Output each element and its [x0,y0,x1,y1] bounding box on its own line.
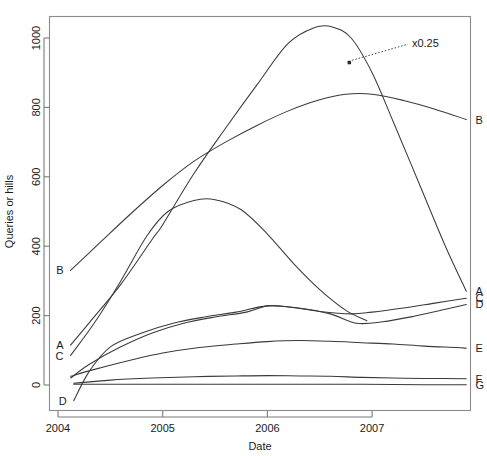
series-label-right-d: D [476,298,484,310]
series-line-b [71,93,467,270]
y-tick-label: 600 [30,168,42,186]
series-line-c-upper-hill [71,199,367,356]
series-line-f [74,376,467,384]
series-line-e [71,341,467,377]
y-tick-label: 400 [30,237,42,255]
chart-container: 02004006008001000 2004200520062007 AABBC… [0,0,487,456]
y-tick-label: 200 [30,306,42,324]
y-axis-ticks: 02004006008001000 [30,26,50,388]
x-axis-ticks: 2004200520062007 [46,411,385,434]
x-tick-label: 2005 [150,422,174,434]
y-tick-label: 800 [30,98,42,116]
y-tick-label: 0 [30,382,42,388]
chart-annotations: x0.25 [348,37,439,64]
x-axis-title: Date [248,440,271,452]
series-label-left-b: B [56,264,63,276]
y-tick-label: 1000 [30,26,42,50]
series-label-right-g: G [476,379,485,391]
data-curves [71,26,467,401]
x-tick-label: 2004 [46,422,70,434]
annotation-anchor-point [348,61,352,65]
series-label-right-b: B [476,114,483,126]
x-tick-label: 2007 [360,422,384,434]
y-axis-title: Queries or hills [3,174,15,248]
line-chart: 02004006008001000 2004200520062007 AABBC… [0,0,487,456]
x-tick-label: 2006 [255,422,279,434]
series-line-c [71,298,467,378]
series-line-a [71,26,467,346]
annotation-label-x025: x0.25 [412,37,439,49]
series-label-right-e: E [476,342,483,354]
series-label-left-d: D [59,395,67,407]
series-label-left-c: C [56,350,64,362]
series-line-d [74,305,467,401]
